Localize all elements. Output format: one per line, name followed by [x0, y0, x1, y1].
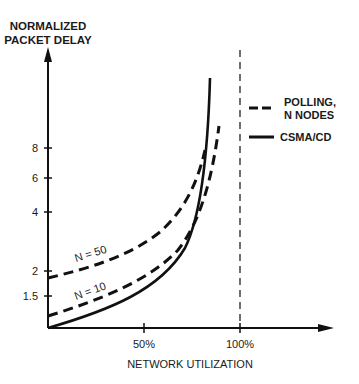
series-polling-n50: [48, 150, 205, 278]
x-axis-label: NETWORK UTILIZATION: [127, 358, 253, 370]
legend: POLLING, N NODES CSMA/CD: [249, 96, 336, 143]
y-axis-label-line1: NORMALIZED: [10, 20, 87, 32]
x-tick-100: 100%: [226, 338, 254, 350]
legend-csma: CSMA/CD: [280, 131, 331, 143]
y-tick-1-5: 1.5: [23, 290, 38, 302]
y-tick-8: 8: [32, 142, 38, 154]
x-axis-arrow-icon: [318, 324, 334, 332]
x-tick-50: 50%: [133, 338, 155, 350]
annotation-n50: N = 50: [73, 243, 108, 264]
y-tick-4: 4: [32, 206, 38, 218]
y-axis-arrow-icon: [44, 47, 52, 62]
legend-polling-line1: POLLING,: [284, 96, 336, 108]
y-tick-2: 2: [32, 265, 38, 277]
legend-polling-line2: N NODES: [284, 109, 334, 121]
y-tick-6: 6: [32, 172, 38, 184]
chart-canvas: NORMALIZED PACKET DELAY 8 6 4 2 1.5 50% …: [0, 0, 359, 384]
y-axis-label-line2: PACKET DELAY: [4, 34, 92, 46]
